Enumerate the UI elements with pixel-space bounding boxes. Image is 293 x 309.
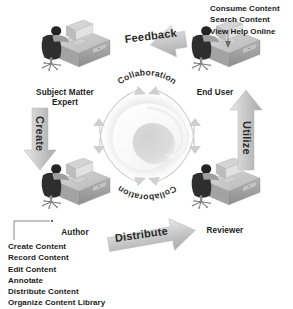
callout-item: Record Content xyxy=(8,252,105,263)
workstation-author xyxy=(42,158,110,209)
flow-label-create: Create xyxy=(34,116,46,151)
callout-item: Annotate xyxy=(8,275,105,286)
callout-item: Distribute Content xyxy=(8,286,105,297)
callout-item: Search Content xyxy=(210,14,280,25)
end-user-callout-list: Consume Content Search Content View Help… xyxy=(210,3,280,37)
callout-item: Organize Content Library xyxy=(8,297,105,308)
collaboration-label-bottom: Collaboration xyxy=(115,184,178,203)
role-label-subject-matter-expert: Subject Matter Expert xyxy=(15,88,115,108)
role-label-end-user: End User xyxy=(180,88,250,98)
role-label-line1: Author xyxy=(45,228,105,238)
callout-item: Create Content xyxy=(8,241,105,252)
role-label-author: Author xyxy=(45,228,105,238)
role-label-line1: Subject Matter xyxy=(15,88,115,98)
callout-item: Consume Content xyxy=(210,3,280,14)
role-label-reviewer: Reviewer xyxy=(190,226,260,236)
role-label-line1: Reviewer xyxy=(190,226,260,236)
author-callout-list: Create Content Record Content Edit Conte… xyxy=(8,241,105,309)
callout-item: Edit Content xyxy=(8,264,105,275)
workstation-subject-matter-expert xyxy=(42,20,110,71)
collaboration-label-top: Collaboration xyxy=(116,67,179,86)
flow-label-utilize: Utilize xyxy=(241,121,253,155)
role-label-line1: End User xyxy=(180,88,250,98)
callout-item: View Help Online xyxy=(210,26,280,37)
role-label-line2: Expert xyxy=(15,98,115,108)
